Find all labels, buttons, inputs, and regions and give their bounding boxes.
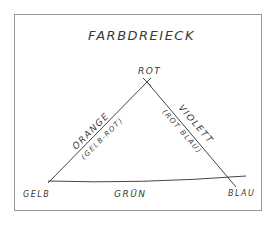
vertex-label-rot: ROT xyxy=(138,66,161,76)
vertex-label-blau: BLAU xyxy=(228,189,255,198)
color-triangle-diagram: FARBDREIECK ROT GELB BLAU ORANGE (GELB-R… xyxy=(0,0,276,226)
apex-mark-icon xyxy=(143,78,151,86)
edge-right-line xyxy=(147,82,236,187)
edge-left-line xyxy=(48,82,147,183)
vertex-label-gelb: GELB xyxy=(23,190,50,199)
diagram-title: FARBDREIECK xyxy=(88,28,195,43)
edge-bottom-line xyxy=(48,176,246,182)
edge-label-gruen: GRÜN xyxy=(114,189,147,199)
